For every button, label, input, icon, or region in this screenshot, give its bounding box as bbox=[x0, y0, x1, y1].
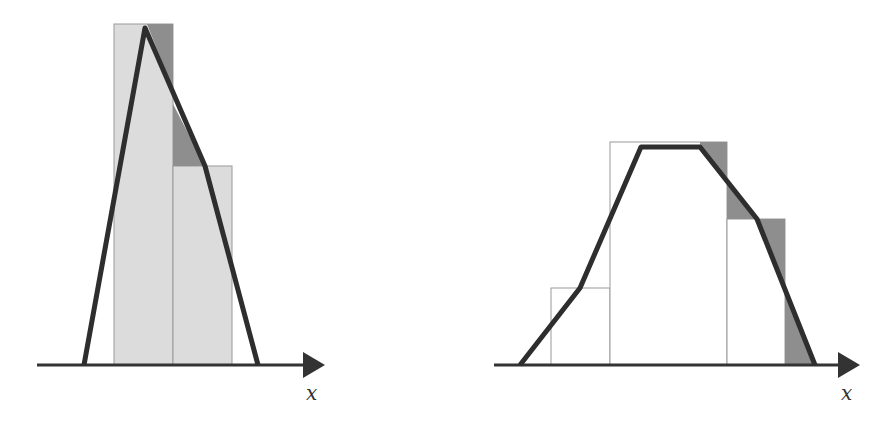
diagram-canvas: x x bbox=[0, 0, 896, 425]
histogram-bar bbox=[551, 288, 610, 365]
x-axis-label: x bbox=[306, 381, 317, 405]
histogram-bar bbox=[173, 166, 232, 365]
arrow-icon bbox=[303, 352, 325, 378]
left-diagram: x bbox=[37, 24, 325, 405]
right-diagram: x bbox=[494, 142, 860, 405]
arrow-icon bbox=[838, 352, 860, 378]
x-axis-label: x bbox=[841, 381, 852, 405]
